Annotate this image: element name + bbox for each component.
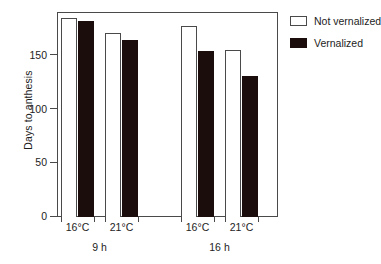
x-axis-group-label-9h: 9 h	[60, 241, 140, 253]
y-tick-label-50: 50	[7, 157, 47, 168]
legend-label-vernalized: Vernalized	[314, 37, 363, 49]
x-axis-group-label-16h: 16 h	[180, 241, 260, 253]
y-tick-label-100: 100	[7, 104, 47, 115]
x-axis-label-9h-21c: 21°C	[95, 221, 149, 233]
legend-entry-vernalized: Vernalized	[290, 36, 372, 50]
y-tick-mark-50	[50, 162, 57, 163]
bar-not-vernalized-1	[105, 33, 121, 217]
legend-label-not-vernalized: Not vernalized	[314, 15, 381, 27]
plot-area	[57, 12, 278, 217]
bar-vernalized-3	[242, 76, 258, 217]
bar-not-vernalized-2	[181, 26, 197, 217]
legend-entry-not-vernalized: Not vernalized	[290, 14, 372, 28]
chart-legend: Not vernalized Vernalized	[290, 14, 372, 58]
x-axis-label-16h-21c: 21°C	[215, 221, 269, 233]
y-tick-mark-0	[50, 216, 57, 217]
filled-square-swatch-icon	[290, 38, 307, 48]
y-tick-mark-150	[50, 54, 57, 55]
bar-vernalized-1	[122, 40, 138, 217]
bar-not-vernalized-0	[61, 18, 77, 217]
bar-vernalized-2	[198, 51, 214, 217]
y-tick-label-0: 0	[7, 211, 47, 222]
open-square-swatch-icon	[290, 16, 307, 26]
bar-vernalized-0	[78, 21, 94, 217]
y-tick-mark-100	[50, 108, 57, 109]
y-tick-label-150: 150	[7, 50, 47, 61]
bar-not-vernalized-3	[225, 50, 241, 217]
